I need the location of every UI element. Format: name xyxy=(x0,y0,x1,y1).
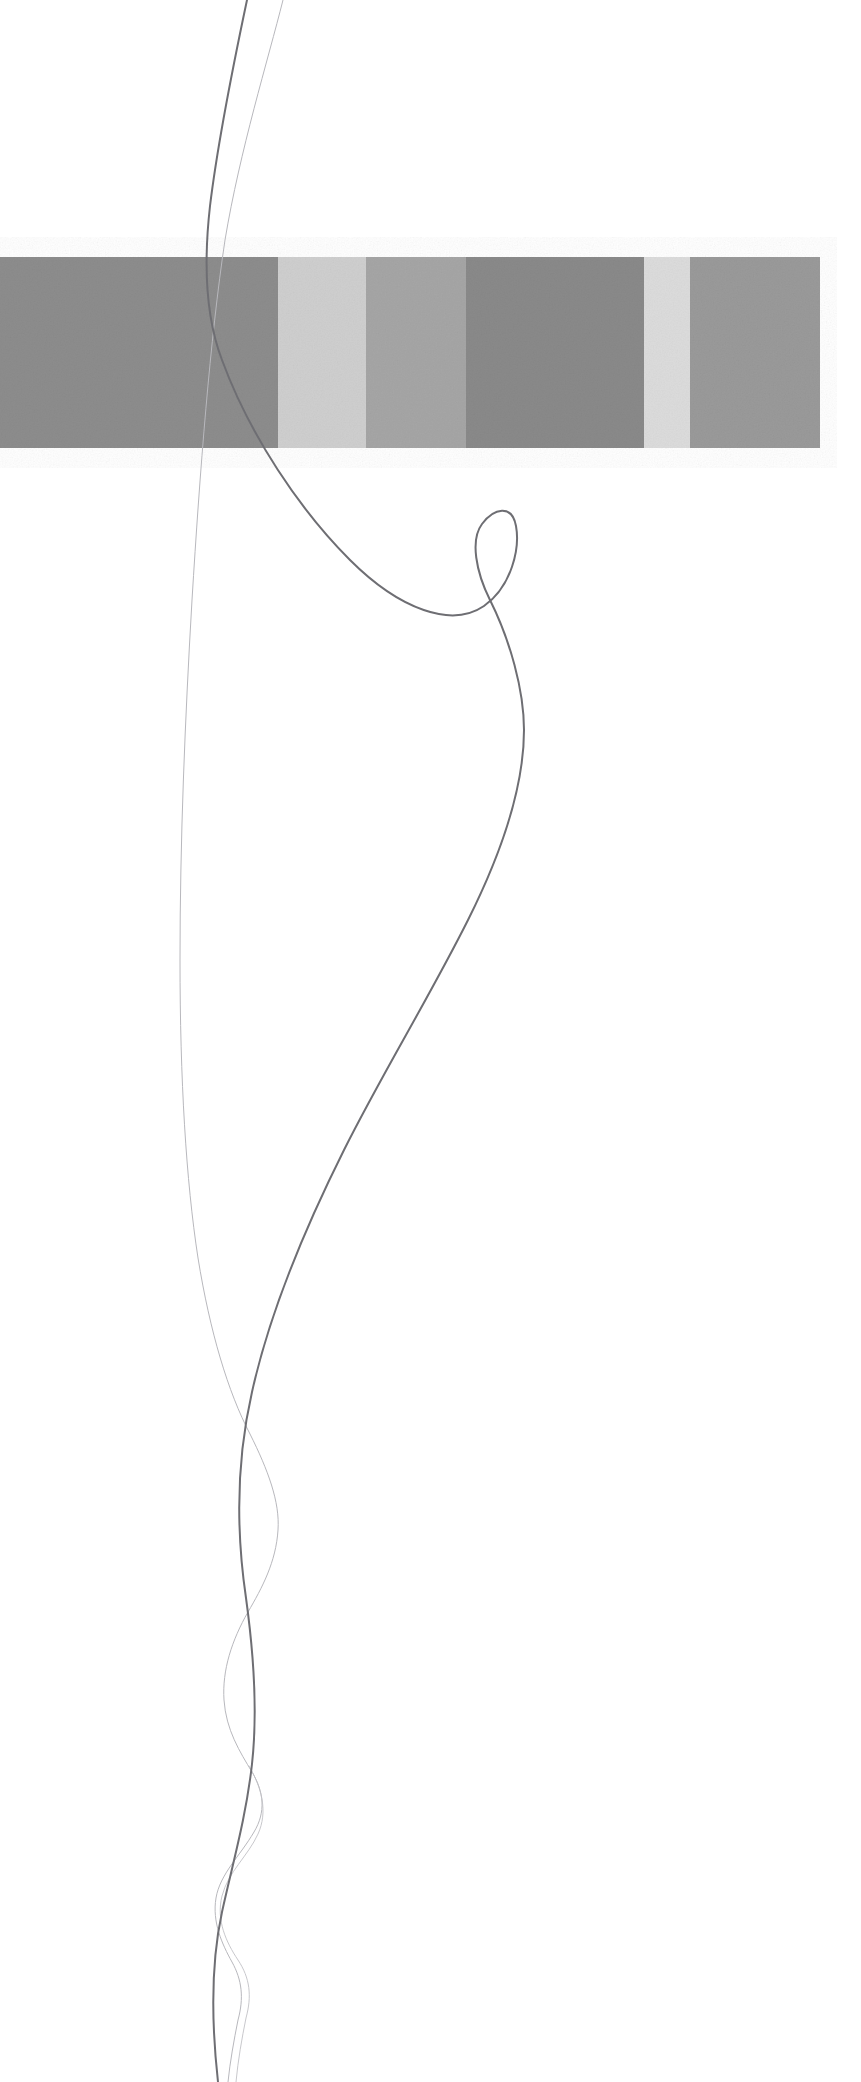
artwork-svg xyxy=(0,0,861,2082)
band-stripe-4 xyxy=(466,257,644,448)
artwork-canvas xyxy=(0,0,861,2082)
band-stripe-1 xyxy=(0,257,278,448)
band-stripe-5 xyxy=(644,257,690,448)
band-stripe-3 xyxy=(366,257,466,448)
band-stripe-6 xyxy=(690,257,820,448)
grayscale-stripe-band xyxy=(0,257,820,448)
band-stripe-2 xyxy=(278,257,366,448)
